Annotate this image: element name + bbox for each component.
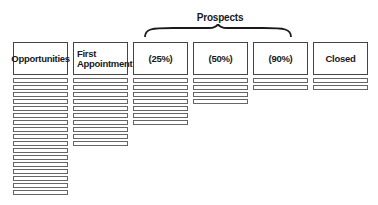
- list-item-bar: [313, 78, 368, 83]
- list-item-bar: [133, 120, 188, 125]
- column-header: Opportunities: [13, 42, 68, 75]
- list-item-bar: [13, 176, 68, 181]
- list-item-bar: [13, 106, 68, 111]
- list-item-bar: [133, 78, 188, 83]
- list-item-bar: [13, 155, 68, 160]
- list-item-bar: [13, 78, 68, 83]
- list-item-bar: [133, 113, 188, 118]
- list-item-bar: [13, 141, 68, 146]
- list-item-bar: [13, 183, 68, 188]
- column-header: Closed: [313, 42, 368, 75]
- list-item-bar: [73, 78, 128, 83]
- list-item-bar: [13, 134, 68, 139]
- bar-stack: [13, 78, 68, 195]
- list-item-bar: [13, 92, 68, 97]
- list-item-bar: [133, 99, 188, 104]
- bar-stack: [313, 78, 368, 90]
- list-item-bar: [133, 85, 188, 90]
- list-item-bar: [13, 120, 68, 125]
- list-item-bar: [193, 92, 248, 97]
- list-item-bar: [193, 99, 248, 104]
- column-header: FirstAppointment: [73, 42, 128, 75]
- list-item-bar: [73, 134, 128, 139]
- list-item-bar: [13, 127, 68, 132]
- list-item-bar: [13, 99, 68, 104]
- bar-stack: [73, 78, 128, 146]
- list-item-bar: [73, 141, 128, 146]
- list-item-bar: [13, 148, 68, 153]
- bar-stack: [193, 78, 248, 104]
- column-25-percent: (25%): [133, 42, 188, 127]
- list-item-bar: [73, 106, 128, 111]
- list-item-bar: [73, 120, 128, 125]
- list-item-bar: [73, 85, 128, 90]
- list-item-bar: [13, 190, 68, 195]
- list-item-bar: [193, 78, 248, 83]
- bar-stack: [253, 78, 308, 90]
- column-header: (50%): [193, 42, 248, 75]
- list-item-bar: [253, 85, 308, 90]
- list-item-bar: [73, 92, 128, 97]
- list-item-bar: [13, 85, 68, 90]
- column-header: (90%): [253, 42, 308, 75]
- list-item-bar: [253, 78, 308, 83]
- list-item-bar: [13, 169, 68, 174]
- bar-stack: [133, 78, 188, 125]
- column-90-percent: (90%): [253, 42, 308, 92]
- column-opportunities: Opportunities: [13, 42, 68, 197]
- curly-brace-icon: [143, 24, 293, 38]
- list-item-bar: [133, 106, 188, 111]
- list-item-bar: [13, 113, 68, 118]
- column-header: (25%): [133, 42, 188, 75]
- list-item-bar: [193, 85, 248, 90]
- list-item-bar: [13, 162, 68, 167]
- list-item-bar: [73, 127, 128, 132]
- column-closed: Closed: [313, 42, 368, 92]
- list-item-bar: [313, 85, 368, 90]
- column-50-percent: (50%): [193, 42, 248, 106]
- list-item-bar: [73, 113, 128, 118]
- list-item-bar: [73, 99, 128, 104]
- list-item-bar: [133, 92, 188, 97]
- column-first-appointment: FirstAppointment: [73, 42, 128, 148]
- prospects-group-label: Prospects: [190, 12, 250, 23]
